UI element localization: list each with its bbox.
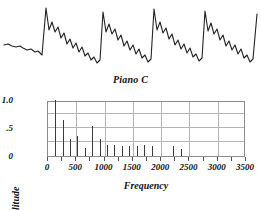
gridline-vertical	[105, 102, 106, 156]
x-minor-tick	[203, 157, 204, 161]
spectrum-panel: Amplitude 0.51.0 05001000150020002500300…	[0, 96, 261, 210]
x-minor-tick	[174, 157, 175, 161]
x-minor-tick	[132, 157, 133, 161]
y-tick-label: .5	[6, 123, 13, 133]
x-minor-tick	[89, 157, 90, 161]
bar	[173, 146, 174, 156]
bar	[100, 139, 101, 156]
waveform-panel	[0, 0, 261, 74]
gridline-vertical	[189, 102, 190, 156]
y-axis-label: Amplitude	[10, 176, 22, 210]
bar	[129, 146, 130, 156]
x-tick-label: 3500	[225, 162, 261, 172]
bar	[70, 139, 71, 156]
x-minor-tick	[160, 157, 161, 161]
bar	[85, 148, 86, 156]
x-minor-tick	[231, 157, 232, 161]
x-minor-tick	[47, 157, 48, 161]
x-minor-tick	[61, 157, 62, 161]
x-minor-tick	[118, 157, 119, 161]
waveform-trace	[4, 8, 257, 63]
x-minor-tick	[217, 157, 218, 161]
plot-area	[47, 101, 245, 157]
bar	[137, 146, 138, 156]
x-minor-tick	[146, 157, 147, 161]
gridline-vertical	[218, 102, 219, 156]
x-minor-tick	[245, 157, 246, 161]
bar	[55, 100, 56, 156]
waveform-caption: Piano C	[0, 74, 261, 85]
bar	[77, 136, 78, 156]
bar	[92, 126, 93, 156]
bar	[107, 145, 108, 156]
x-axis-label: Frequency	[47, 180, 245, 191]
y-tick-label: 0	[9, 151, 14, 161]
bar	[144, 145, 145, 156]
gridline-horizontal	[48, 127, 244, 128]
x-minor-tick	[188, 157, 189, 161]
gridline-horizontal	[48, 113, 244, 114]
bar	[181, 149, 182, 156]
bar	[122, 146, 123, 156]
x-minor-tick	[75, 157, 76, 161]
x-minor-tick	[104, 157, 105, 161]
figure-root: Piano C Amplitude 0.51.0 050010001500200…	[0, 0, 261, 210]
bar	[63, 120, 64, 156]
bar	[114, 145, 115, 156]
y-tick-label: 1.0	[2, 95, 13, 105]
gridline-vertical	[161, 102, 162, 156]
bar	[152, 146, 153, 156]
gridline-vertical	[133, 102, 134, 156]
waveform-plot	[0, 0, 261, 74]
